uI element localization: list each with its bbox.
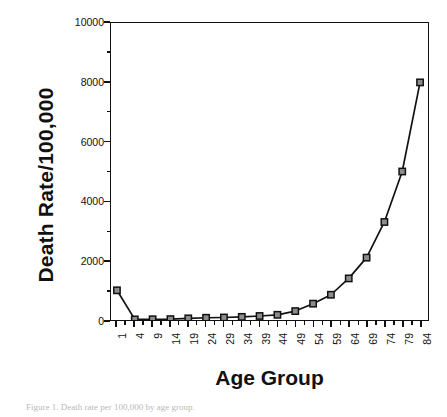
figure-caption: Figure 1. Death rate per 100,000 by age … [26, 402, 426, 412]
x-axis-tick-labels: 149141924293439444954596469747984 [0, 0, 447, 417]
figure-container: Death Rate/100,000 020004000600080001000… [0, 0, 447, 417]
x-axis-title: Age Group [110, 366, 429, 390]
